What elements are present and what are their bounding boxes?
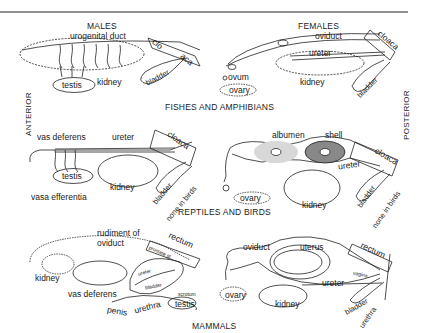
- label-kidney: kidney: [302, 201, 327, 210]
- label-testis: testis: [62, 81, 82, 90]
- row-title-fishes-amphibians: FISHES AND AMPHIBIANS: [165, 103, 274, 112]
- label-albumen: albumen: [272, 131, 305, 140]
- anterior-label: ANTERIOR: [24, 92, 33, 136]
- label-oviduct: oviduct: [315, 32, 342, 41]
- label-vasa-efferentia: vasa efferentia: [31, 193, 87, 202]
- label-scrotum: scrotum: [178, 292, 196, 297]
- row-title-mammals: MAMMALS: [192, 322, 236, 331]
- label-oviduct: oviduct: [97, 239, 124, 248]
- label-ureter: ureter: [309, 49, 331, 58]
- males-column-header: MALES: [87, 22, 117, 31]
- label-testis: testis: [62, 172, 82, 181]
- label-vas-deferens: vas deferens: [68, 290, 117, 299]
- females-column-header: FEMALES: [298, 22, 339, 31]
- label-ovary: ovary: [225, 291, 246, 300]
- row-title-reptiles-birds: REPTILES AND BIRDS: [178, 208, 271, 217]
- label-ureter: ureter: [322, 279, 344, 288]
- label-kidney: kidney: [110, 183, 135, 192]
- label-oviduct: oviduct: [243, 243, 270, 252]
- label-ureter: ureter: [112, 133, 134, 142]
- label-rudiment-of: rudiment of: [97, 229, 140, 238]
- label-ovary: ovary: [229, 86, 250, 95]
- label-kidney: kidney: [35, 274, 60, 283]
- label-testis: testis: [175, 300, 195, 309]
- posterior-label: POSTERIOR: [402, 90, 411, 140]
- label-kidney: kidney: [97, 78, 122, 87]
- label-ovum: ovum: [228, 73, 249, 82]
- label-urogenital-duct: urogenital duct: [70, 32, 126, 41]
- label-kidney: kidney: [300, 78, 325, 87]
- label-shell: shell: [325, 131, 342, 140]
- label-kidney: kidney: [275, 300, 300, 309]
- label-vas-deferens: vas deferens: [37, 133, 86, 142]
- label-ovary: ovary: [240, 194, 261, 203]
- label-uterus: uterus: [300, 243, 324, 252]
